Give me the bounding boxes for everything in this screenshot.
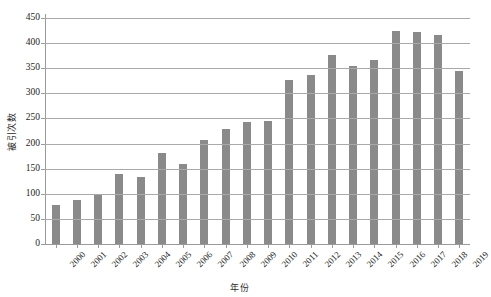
y-tick-mark-350: [41, 68, 45, 69]
x-tick-label: 2002: [110, 250, 129, 269]
bar-slot: [215, 18, 236, 244]
x-tick-label: 2005: [174, 250, 193, 269]
bar[interactable]: [264, 121, 272, 244]
bar[interactable]: [434, 35, 442, 244]
x-axis-title: 年份: [0, 281, 479, 294]
bar[interactable]: [137, 177, 145, 244]
x-tick-label: 2019: [472, 250, 491, 269]
x-tick-label: 2009: [259, 250, 278, 269]
x-tick-label: 2010: [280, 250, 299, 269]
gridline-400: [45, 43, 470, 44]
gridline-350: [45, 68, 470, 69]
bar-slot: [279, 18, 300, 244]
x-tick-label: 2004: [153, 250, 172, 269]
x-tick-label: 2017: [429, 250, 448, 269]
bar[interactable]: [328, 55, 336, 244]
y-tick-label: 350: [14, 63, 40, 73]
y-tick-mark-250: [41, 118, 45, 119]
bar[interactable]: [222, 129, 230, 244]
y-tick-label: 250: [14, 114, 40, 124]
gridline-450: [45, 18, 470, 19]
bar[interactable]: [392, 31, 400, 244]
x-tick-label: 2008: [238, 250, 257, 269]
y-tick-mark-300: [41, 93, 45, 94]
bar-slot: [258, 18, 279, 244]
bar[interactable]: [52, 205, 60, 244]
gridline-50: [45, 219, 470, 220]
x-tick-label: 2013: [344, 250, 363, 269]
y-tick-label: 0: [14, 239, 40, 249]
x-tick-label: 2018: [450, 250, 469, 269]
y-tick-mark-50: [41, 219, 45, 220]
y-tick-mark-100: [41, 194, 45, 195]
y-axis-tick-labels: 050100150200250300350400450: [14, 18, 40, 244]
x-tick-label: 2006: [195, 250, 214, 269]
y-tick-label: 200: [14, 139, 40, 149]
x-tick-label: 2001: [89, 250, 108, 269]
bar-slot: [321, 18, 342, 244]
bar-slot: [45, 18, 66, 244]
gridline-200: [45, 144, 470, 145]
bar-slot: [66, 18, 87, 244]
gridline-150: [45, 169, 470, 170]
bar-slot: [406, 18, 427, 244]
bar-slot: [385, 18, 406, 244]
x-axis-tick-labels: 2000200120022003200420052006200720082009…: [45, 248, 470, 282]
bar-slot: [194, 18, 215, 244]
y-tick-label: 50: [14, 214, 40, 224]
bar[interactable]: [115, 174, 123, 244]
gridline-250: [45, 118, 470, 119]
bar-slot: [236, 18, 257, 244]
bar[interactable]: [200, 140, 208, 244]
bar-slot: [300, 18, 321, 244]
y-tick-mark-200: [41, 144, 45, 145]
y-tick-label: 100: [14, 189, 40, 199]
bar-slot: [151, 18, 172, 244]
gridline-100: [45, 194, 470, 195]
bar[interactable]: [179, 164, 187, 244]
y-tick-mark-400: [41, 43, 45, 44]
plot-area: [45, 18, 470, 244]
x-tick-label: 2003: [132, 250, 151, 269]
x-tick-label: 2000: [68, 250, 87, 269]
y-tick-label: 450: [14, 13, 40, 23]
bar[interactable]: [73, 200, 81, 244]
bar[interactable]: [158, 153, 166, 244]
y-tick-label: 400: [14, 38, 40, 48]
bar-slot: [343, 18, 364, 244]
bar-slot: [130, 18, 151, 244]
x-tick-label: 2014: [365, 250, 384, 269]
bar-slot: [364, 18, 385, 244]
y-tick-mark-150: [41, 169, 45, 170]
bar[interactable]: [370, 60, 378, 244]
gridline-300: [45, 93, 470, 94]
bar[interactable]: [413, 32, 421, 244]
x-tick-label: 2012: [323, 250, 342, 269]
y-tick-label: 150: [14, 164, 40, 174]
x-tick-label: 2007: [217, 250, 236, 269]
x-tick-label: 2016: [408, 250, 427, 269]
x-tick-label: 2015: [387, 250, 406, 269]
bar-slot: [428, 18, 449, 244]
bar-slot: [88, 18, 109, 244]
y-tick-mark-450: [41, 18, 45, 19]
bar-slot: [173, 18, 194, 244]
y-tick-label: 300: [14, 89, 40, 99]
x-tick-label: 2011: [302, 250, 321, 269]
bar-slot: [109, 18, 130, 244]
bar-slot: [449, 18, 470, 244]
bars-layer: [45, 18, 470, 244]
bar[interactable]: [243, 122, 251, 244]
